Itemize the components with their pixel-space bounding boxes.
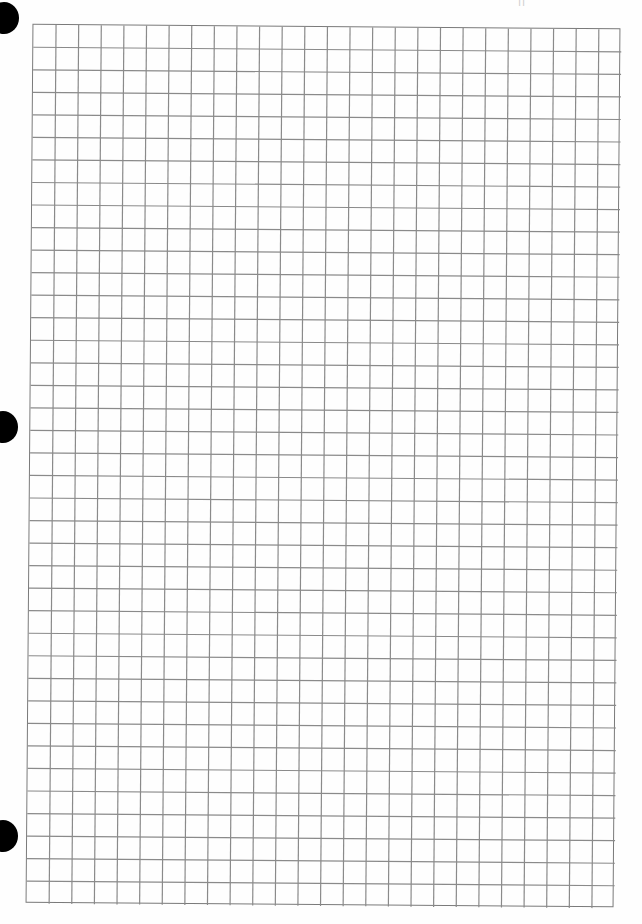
faint-top-mark: ıı [518,0,526,8]
grid-lines [27,25,620,907]
punch-hole-top [0,2,19,34]
punch-hole-bottom [0,820,18,852]
punch-hole-middle [0,411,18,443]
square-grid [26,24,621,908]
graph-paper-sheet: ıı [0,0,642,924]
